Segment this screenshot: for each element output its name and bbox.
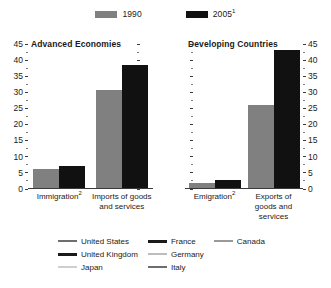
category-label: Immigration2	[28, 192, 91, 220]
country-legend-column: United StatesUnited KingdomJapan	[58, 236, 138, 272]
tick-mark	[303, 156, 306, 157]
axis-tick-label: 45	[14, 39, 23, 48]
country-legend-item-italy: Italy	[148, 262, 204, 272]
axis-tick-label: 0	[308, 184, 313, 193]
bar-20051	[215, 180, 241, 188]
bar-groups-developing	[185, 44, 303, 188]
country-legend-item-germany: Germany	[148, 249, 204, 259]
series-legend-label-1990: 1990	[122, 10, 141, 19]
tick-mark	[303, 189, 306, 190]
series-legend-label-2005: 20051	[213, 10, 236, 19]
bar-20051	[59, 166, 85, 188]
country-legend-item-france: France	[148, 236, 204, 246]
country-legend-line-swatch	[214, 240, 233, 242]
country-legend-line-swatch	[58, 253, 77, 256]
tick-mark	[303, 108, 306, 109]
tick-mark	[303, 164, 305, 165]
axis-tick-label: 20	[14, 120, 23, 129]
plot-area-developing	[185, 44, 303, 189]
tick-mark	[303, 68, 305, 69]
tick-mark	[303, 180, 305, 181]
series-legend-item-1990: 1990	[95, 10, 141, 19]
axis-tick-label: 30	[14, 88, 23, 97]
tick-mark	[303, 76, 306, 77]
country-legend-label: Italy	[171, 263, 186, 272]
country-legend-line-swatch	[58, 266, 77, 268]
country-legend-item-canada: Canada	[214, 236, 265, 246]
bar-group	[185, 44, 244, 188]
country-legend-item-japan: Japan	[58, 262, 138, 272]
bar-1990	[33, 169, 59, 188]
bar-20051	[274, 50, 300, 188]
country-legend-line-swatch	[148, 266, 167, 268]
bar-group	[244, 44, 303, 188]
tick-mark	[303, 140, 306, 141]
country-legend-line-swatch	[58, 240, 77, 242]
tick-mark	[303, 132, 305, 133]
plot-area-advanced	[28, 44, 153, 189]
tick-mark	[303, 60, 306, 61]
bar-group	[28, 44, 91, 188]
tick-mark	[303, 100, 305, 101]
tick-mark	[303, 116, 305, 117]
bar-20051	[122, 65, 148, 188]
country-legend-item-united-kingdom: United Kingdom	[58, 249, 138, 259]
y-axis-right: 051015202530354045	[303, 44, 329, 189]
tick-mark	[303, 44, 306, 45]
country-legend-label: France	[171, 237, 196, 246]
country-legend-label: United Kingdom	[81, 250, 138, 259]
axis-tick-label: 0	[18, 184, 23, 193]
axis-tick-label: 10	[14, 152, 23, 161]
axis-tick-label: 5	[18, 168, 23, 177]
axis-tick-label: 30	[308, 88, 317, 97]
legend-swatch-1990	[95, 11, 117, 18]
country-legend-item-united-states: United States	[58, 236, 138, 246]
axis-tick-label: 45	[308, 39, 317, 48]
y-axis-left: 051015202530354045	[2, 44, 28, 189]
category-label: Imports of goods and services	[91, 192, 154, 220]
chart-panel-developing-countries: Developing Countries 051015202530354045 …	[165, 36, 331, 222]
tick-mark	[303, 84, 305, 85]
axis-tick-label: 10	[308, 152, 317, 161]
axis-tick-label: 25	[308, 104, 317, 113]
axis-tick-label: 35	[308, 71, 317, 80]
axis-tick-label: 25	[14, 104, 23, 113]
axis-tick-label: 20	[308, 120, 317, 129]
axis-tick-label: 15	[308, 136, 317, 145]
country-legend-label: United States	[81, 237, 129, 246]
tick-mark	[303, 172, 306, 173]
category-labels-developing: Emigration2Exports of goods and services	[185, 192, 303, 220]
axis-tick-label: 5	[308, 168, 313, 177]
x-axis-baseline-advanced	[28, 188, 153, 189]
legend-swatch-2005	[186, 11, 208, 18]
series-legend-item-2005: 20051	[186, 10, 236, 19]
country-legend: United StatesUnited KingdomJapanFranceGe…	[58, 236, 308, 272]
bar-1990	[248, 105, 274, 188]
category-label: Exports of goods and services	[244, 192, 303, 220]
charts-container: Advanced Economies 051015202530354045 Im…	[0, 36, 331, 222]
country-legend-label: Germany	[171, 250, 204, 259]
country-legend-line-swatch	[148, 253, 167, 255]
country-legend-column: Canada	[214, 236, 265, 272]
axis-tick-label: 15	[14, 136, 23, 145]
axis-tick-label: 35	[14, 71, 23, 80]
tick-mark	[303, 148, 305, 149]
category-labels-advanced: Immigration2Imports of goods and service…	[28, 192, 153, 220]
category-label: Emigration2	[185, 192, 244, 220]
bar-1990	[96, 90, 122, 188]
x-axis-baseline-developing	[185, 188, 303, 189]
axis-tick-label: 40	[14, 55, 23, 64]
chart-panel-advanced-economies: Advanced Economies 051015202530354045 Im…	[0, 36, 165, 222]
tick-mark	[303, 92, 306, 93]
country-legend-column: FranceGermanyItaly	[148, 236, 204, 272]
country-legend-line-swatch	[148, 240, 167, 243]
country-legend-label: Canada	[237, 237, 265, 246]
bar-groups-advanced	[28, 44, 153, 188]
axis-tick-label: 40	[308, 55, 317, 64]
tick-mark	[303, 52, 305, 53]
bar-group	[91, 44, 154, 188]
series-legend: 1990 20051	[0, 10, 331, 19]
tick-mark	[303, 124, 306, 125]
country-legend-label: Japan	[81, 263, 103, 272]
